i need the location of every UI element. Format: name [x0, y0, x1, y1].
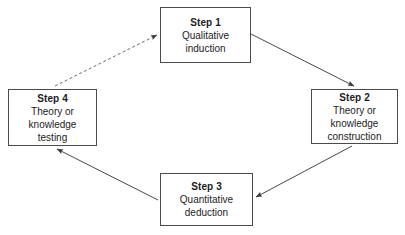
- node-step-2-line-1: Theory or: [333, 104, 376, 117]
- node-step-1-title: Step 1: [190, 16, 221, 29]
- connector-step-3-to-step-4: [57, 149, 158, 200]
- node-step-1-line-2: induction: [185, 42, 225, 55]
- node-step-3-title: Step 3: [191, 180, 222, 193]
- node-step-3: Step 3 Quantitative deduction: [160, 173, 253, 226]
- node-step-3-line-2: deduction: [185, 206, 228, 219]
- node-step-4-title: Step 4: [37, 92, 68, 105]
- node-step-4-line-3: testing: [38, 131, 67, 144]
- node-step-2-title: Step 2: [339, 91, 370, 104]
- node-step-4-line-1: Theory or: [31, 105, 74, 118]
- node-step-1: Step 1 Qualitative induction: [160, 7, 251, 63]
- node-step-1-line-1: Qualitative: [182, 29, 229, 42]
- cycle-diagram: Step 1 Qualitative induction Step 2 Theo…: [0, 0, 405, 235]
- node-step-2: Step 2 Theory or knowledge construction: [311, 89, 398, 144]
- node-step-4-line-2: knowledge: [29, 118, 77, 131]
- connector-step-1-to-step-2: [251, 34, 354, 86]
- connector-step-4-to-step-1: [55, 35, 157, 86]
- node-step-4: Step 4 Theory or knowledge testing: [8, 89, 97, 146]
- connector-step-2-to-step-3: [256, 146, 352, 197]
- node-step-2-line-2: knowledge: [331, 117, 379, 130]
- node-step-2-line-3: construction: [328, 130, 382, 143]
- node-step-3-line-1: Quantitative: [180, 193, 233, 206]
